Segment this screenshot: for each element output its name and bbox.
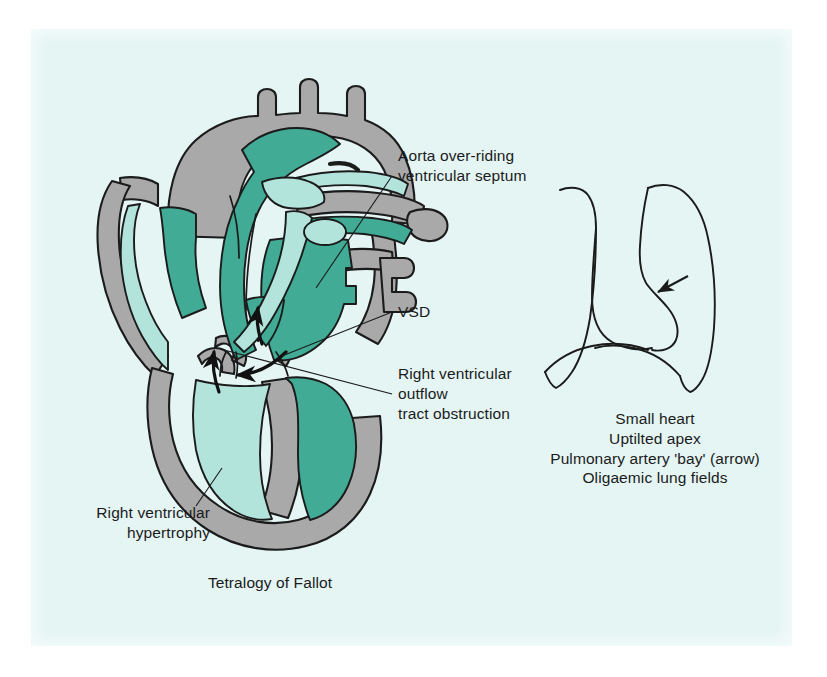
chest-xray-outline: [545, 185, 715, 392]
right-heart-border: [592, 228, 652, 349]
left-hemidiaphragm: [595, 346, 680, 376]
aortic-valve-slit: [330, 163, 358, 170]
label-aorta-overriding-ventricular-septum: Aorta over-riding ventricular septum: [398, 146, 526, 186]
figure-artwork: [0, 0, 827, 677]
left-heart-border-with-pa-bay: [640, 188, 678, 351]
xray-findings-list: Small heart Uptilted apex Pulmonary arte…: [520, 409, 790, 488]
pa-bay-arrow: [658, 276, 688, 292]
right-lung-outline: [545, 188, 596, 388]
label-right-ventricular-outflow-tract-obstruction: Right ventricular outflow tract obstruct…: [398, 364, 512, 423]
right-pulmonary-artery-cross-section: [304, 219, 346, 245]
heart-cross-section: [98, 79, 448, 550]
figure-title-tetralogy-of-fallot: Tetralogy of Fallot: [135, 573, 405, 593]
label-vsd: VSD: [398, 302, 430, 322]
tricuspid-valve-wall: [198, 348, 235, 374]
label-right-ventricular-hypertrophy: Right ventricular hypertrophy: [10, 503, 210, 543]
left-lung-outline: [648, 185, 715, 392]
right-pulmonary-branch-wall: [407, 209, 447, 241]
figure-root: Aorta over-riding ventricular septum VSD…: [0, 0, 827, 677]
